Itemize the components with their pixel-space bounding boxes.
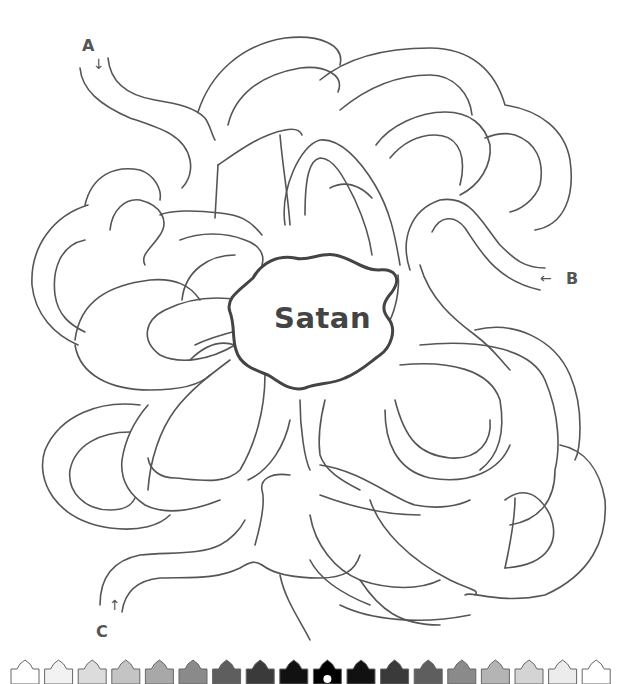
maze-wall bbox=[100, 520, 245, 605]
footer-tile bbox=[448, 660, 476, 684]
maze-wall bbox=[390, 135, 463, 185]
maze-wall bbox=[160, 211, 262, 235]
maze-wall bbox=[370, 500, 476, 595]
footer-tile bbox=[11, 660, 39, 684]
maze-wall bbox=[248, 420, 290, 480]
footer-tile bbox=[582, 660, 610, 684]
footer-tile bbox=[179, 660, 207, 684]
cropped-header-text bbox=[0, 0, 200, 4]
up-arrow-icon: ↑ bbox=[109, 598, 121, 612]
maze-wall bbox=[180, 234, 263, 265]
maze-wall bbox=[505, 498, 515, 568]
maze-wall bbox=[400, 364, 502, 470]
maze-wall bbox=[485, 134, 541, 212]
maze-wall bbox=[310, 515, 440, 588]
footer-tile bbox=[381, 660, 409, 684]
maze-wall bbox=[255, 474, 290, 545]
footer-tile bbox=[145, 660, 173, 684]
footer-tile bbox=[515, 660, 543, 684]
maze-wall bbox=[284, 140, 400, 265]
footer-tile bbox=[78, 660, 106, 684]
maze-wall bbox=[110, 200, 164, 265]
footer-tile bbox=[112, 660, 140, 684]
footer-tile bbox=[481, 660, 509, 684]
maze-wall bbox=[385, 410, 510, 480]
maze-wall bbox=[228, 67, 339, 125]
maze-wall bbox=[262, 555, 360, 578]
maze-wall bbox=[420, 265, 510, 370]
footer-tile bbox=[246, 660, 274, 684]
maze-wall bbox=[148, 375, 265, 480]
decorative-footer-strip bbox=[0, 655, 620, 684]
maze-wall bbox=[320, 495, 420, 515]
footer-tile bbox=[213, 660, 241, 684]
center-label: Satan bbox=[274, 301, 371, 335]
maze-wall bbox=[280, 575, 310, 640]
maze-wall bbox=[432, 219, 540, 290]
maze-wall bbox=[182, 255, 235, 300]
down-arrow-icon: ↓ bbox=[93, 57, 105, 71]
maze-wall bbox=[340, 605, 470, 620]
page-marker-icon bbox=[323, 675, 331, 683]
left-arrow-icon: ← bbox=[540, 271, 552, 285]
maze-wall bbox=[320, 465, 470, 507]
maze-wall bbox=[122, 562, 262, 612]
maze-wall bbox=[190, 343, 235, 360]
maze-wall bbox=[218, 129, 302, 165]
maze-wall bbox=[85, 169, 160, 205]
footer-tile bbox=[414, 660, 442, 684]
maze-wall bbox=[108, 58, 215, 140]
maze-wall bbox=[215, 165, 218, 218]
maze-wall bbox=[395, 400, 490, 458]
maze-wall bbox=[75, 345, 210, 390]
footer-tile bbox=[45, 660, 73, 684]
maze-wall bbox=[122, 405, 220, 511]
maze-wall bbox=[320, 48, 571, 230]
maze-wall bbox=[465, 445, 605, 599]
footer-tile bbox=[549, 660, 577, 684]
maze-wall bbox=[198, 37, 341, 112]
maze-wall bbox=[148, 360, 230, 490]
maze-wall bbox=[340, 75, 472, 115]
maze-wall bbox=[319, 400, 360, 490]
maze-wall bbox=[75, 280, 200, 340]
maze-wall bbox=[406, 199, 545, 270]
maze-wall bbox=[147, 298, 240, 360]
footer-tile bbox=[280, 660, 308, 684]
maze-wall bbox=[305, 158, 372, 255]
footer-tile bbox=[347, 660, 375, 684]
maze-wall bbox=[300, 400, 310, 470]
maze-wall bbox=[280, 135, 290, 225]
entrance-label-a: A bbox=[82, 36, 94, 55]
entrance-label-b: B bbox=[566, 269, 578, 288]
entrance-label-c: C bbox=[96, 622, 108, 641]
